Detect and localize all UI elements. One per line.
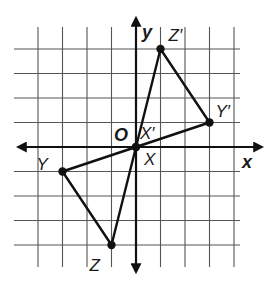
vertex-point [58, 167, 66, 175]
vertex-point [107, 241, 115, 249]
vertex-label: X [143, 150, 156, 169]
origin-label: O [114, 125, 128, 145]
vertex-label: X′ [139, 124, 155, 143]
y-axis-label: y [141, 22, 153, 42]
vertex-point [132, 143, 140, 151]
vertex-label: Y′ [216, 102, 231, 121]
vertex-label: Z′ [168, 26, 183, 45]
coordinate-plane-figure: yxOXYZX′Y′Z′ [0, 0, 272, 282]
vertex-point [205, 118, 213, 126]
x-axis-label: x [241, 152, 253, 172]
vertex-label: Z [89, 256, 101, 275]
vertex-label: Y [37, 155, 50, 174]
vertex-point [156, 45, 164, 53]
labels: yxOXYZX′Y′Z′ [37, 22, 254, 275]
